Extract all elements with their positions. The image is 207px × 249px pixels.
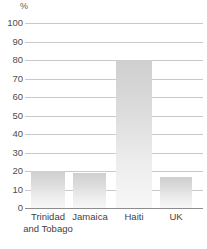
y-tick-label: 90 [1,37,23,47]
gridline-80 [25,60,203,61]
gridline-90 [25,42,203,43]
bar-haiti [116,60,152,208]
x-tick-label-line1: Trinidad [31,211,65,222]
y-tick-label: 40 [1,129,23,139]
x-tick-label-uk: UK [159,211,193,223]
x-tick-label-haiti: Haiti [115,211,153,223]
bar-jamaica [73,173,106,208]
y-tick-label: 80 [1,55,23,65]
gridline-30 [25,153,203,154]
x-tick-label-line1: Haiti [124,211,143,222]
gridline-70 [25,79,203,80]
bar-uk [160,177,192,208]
axis-baseline-0 [25,208,203,209]
y-tick-label: 10 [1,185,23,195]
gridline-100 [25,23,203,24]
y-tick-label: 70 [1,74,23,84]
x-tick-label-line1: UK [169,211,182,222]
gridline-60 [25,97,203,98]
x-tick-label-line2: and Tobago [19,223,77,235]
y-tick-label: 30 [1,148,23,158]
x-axis-tick-labels: Trinidad and Tobago Jamaica Haiti UK [25,211,203,247]
y-axis-tick-labels: 100 90 80 70 60 50 40 30 20 10 0 [0,23,23,208]
plot-area [25,23,203,208]
y-axis-unit-label: % [20,1,28,11]
x-tick-label-line1: Jamaica [72,211,107,222]
gridline-50 [25,116,203,117]
bar-trinidad-and-tobago [31,171,65,208]
y-tick-label: 60 [1,92,23,102]
y-tick-label: 50 [1,111,23,121]
x-tick-label-trinidad-and-tobago: Trinidad and Tobago [19,211,77,235]
x-tick-label-jamaica: Jamaica [71,211,109,223]
gridline-40 [25,134,203,135]
y-tick-label: 100 [1,18,23,28]
y-tick-label: 20 [1,166,23,176]
bar-chart: % 100 90 80 70 60 50 40 30 20 10 0 Trini… [0,0,207,249]
